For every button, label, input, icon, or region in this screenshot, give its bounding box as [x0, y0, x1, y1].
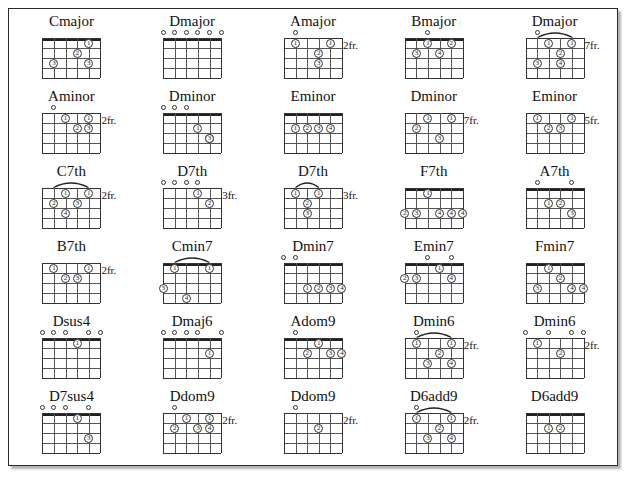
finger-dot: 4	[182, 294, 191, 303]
chord-diagram: 1234	[391, 30, 477, 80]
chord-card: F7th123444	[373, 163, 494, 238]
chord-name: Emin7	[414, 238, 454, 254]
fret-line	[42, 68, 100, 69]
string-line	[440, 113, 441, 153]
fret-line	[163, 153, 221, 154]
string-line	[319, 113, 320, 153]
open-string-icon	[172, 405, 177, 410]
string-line	[572, 263, 573, 303]
string-line	[186, 188, 187, 228]
fret-line	[163, 143, 221, 144]
chord-card: A7th123	[494, 163, 615, 238]
fret-line	[42, 78, 100, 79]
fretboard: 2	[284, 413, 342, 453]
fret-line	[284, 153, 342, 154]
fret-position-label: 7fr.	[585, 40, 600, 51]
chord-card: Aminor11232fr.	[11, 88, 132, 163]
finger-dot: 4	[447, 209, 456, 218]
open-string-icon	[51, 105, 56, 110]
string-line	[560, 413, 561, 453]
string-line	[319, 413, 320, 453]
finger-dot: 3	[84, 434, 93, 443]
fret-line	[163, 78, 221, 79]
fret-line	[42, 413, 100, 414]
fretboard: 1123	[284, 188, 342, 228]
chord-card: Cmajor3213	[11, 13, 132, 88]
fret-line	[405, 263, 463, 264]
string-line	[463, 188, 464, 228]
open-string-icon	[425, 255, 430, 260]
chord-card: Ddom922fr.	[253, 388, 374, 463]
finger-dot: 3	[193, 424, 202, 433]
open-string-icon	[449, 255, 454, 260]
open-strings-row	[163, 105, 221, 112]
finger-dot: 3	[326, 284, 335, 293]
finger-dot: 2	[400, 274, 409, 283]
fret-line	[284, 443, 342, 444]
fret-line	[405, 198, 463, 199]
chord-card: D7th11233fr.	[253, 163, 374, 238]
finger-dot: 4	[567, 284, 576, 293]
finger-dot: 1	[61, 189, 70, 198]
fret-line	[526, 423, 584, 424]
chord-diagram: 11235fr.	[512, 105, 598, 155]
fret-line	[284, 263, 342, 264]
finger-dot: 3	[435, 134, 444, 143]
string-line	[163, 188, 164, 228]
fret-line	[284, 423, 342, 424]
fret-line	[163, 198, 221, 199]
fret-line	[405, 153, 463, 154]
fretboard: 11234	[405, 413, 463, 453]
open-string-icon	[172, 105, 177, 110]
fret-line	[42, 358, 100, 359]
string-line	[221, 338, 222, 378]
open-string-icon	[293, 30, 298, 35]
string-line	[54, 338, 55, 378]
string-line	[42, 263, 43, 303]
string-line	[330, 338, 331, 378]
fret-line	[163, 218, 221, 219]
string-line	[210, 338, 211, 378]
string-line	[440, 38, 441, 78]
chord-card: D6add9112342fr.	[373, 388, 494, 463]
finger-dot: 1	[61, 114, 70, 123]
finger-dot: 3	[412, 49, 421, 58]
fret-line	[405, 283, 463, 284]
open-string-icon	[293, 255, 298, 260]
fret-line	[163, 58, 221, 59]
fret-line	[405, 218, 463, 219]
finger-dot: 1	[205, 349, 214, 358]
fret-line	[163, 378, 221, 379]
fret-line	[405, 133, 463, 134]
fret-position-label: 2fr.	[101, 190, 116, 201]
barre-arc-icon	[405, 330, 463, 338]
finger-dot: 2	[314, 424, 323, 433]
finger-dot: 1	[205, 264, 214, 273]
string-line	[296, 338, 297, 378]
chord-card: Dmaj61	[132, 313, 253, 388]
finger-dot: 2	[303, 349, 312, 358]
finger-dot: 1	[423, 39, 432, 48]
string-line	[342, 338, 343, 378]
fretboard: 1	[163, 338, 221, 378]
open-string-icon	[195, 330, 200, 335]
fretboard: 1234	[284, 113, 342, 153]
string-line	[342, 263, 343, 303]
chord-name: Dminor	[410, 88, 457, 104]
open-string-icon	[281, 255, 286, 260]
finger-dot: 1	[291, 39, 300, 48]
string-line	[572, 188, 573, 228]
fretboard: 1123	[405, 113, 463, 153]
finger-dot: 2	[314, 284, 323, 293]
finger-dot: 1	[182, 414, 191, 423]
finger-dot: 4	[337, 284, 346, 293]
fret-line	[526, 153, 584, 154]
fret-position-label: 2fr.	[464, 415, 479, 426]
open-string-icon	[546, 330, 551, 335]
fret-line	[163, 413, 221, 414]
fretboard: 1134	[163, 263, 221, 303]
string-line	[330, 113, 331, 153]
fret-line	[526, 378, 584, 379]
fret-line	[42, 378, 100, 379]
finger-dot: 1	[435, 264, 444, 273]
